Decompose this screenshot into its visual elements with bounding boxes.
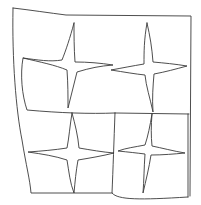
star-shapes (23, 23, 187, 193)
outer-frame (13, 8, 191, 196)
star-bottom-right (118, 114, 185, 193)
star-top-right (111, 23, 187, 112)
star-top-left (23, 23, 113, 108)
quilt-svg (0, 0, 201, 205)
quilt-drawing: Quilt sketch with four-pointed stars (0, 0, 201, 205)
star-bottom-left (28, 113, 114, 193)
panel-lines (13, 8, 191, 199)
